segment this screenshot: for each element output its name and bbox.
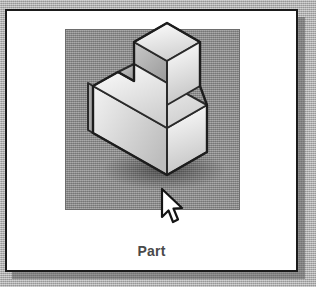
part-preview-viewport[interactable] (65, 29, 240, 210)
part-caption-label: Part (7, 243, 296, 259)
isometric-stepped-block-part-icon (60, 24, 250, 224)
part-template-card[interactable]: Part (5, 9, 298, 272)
